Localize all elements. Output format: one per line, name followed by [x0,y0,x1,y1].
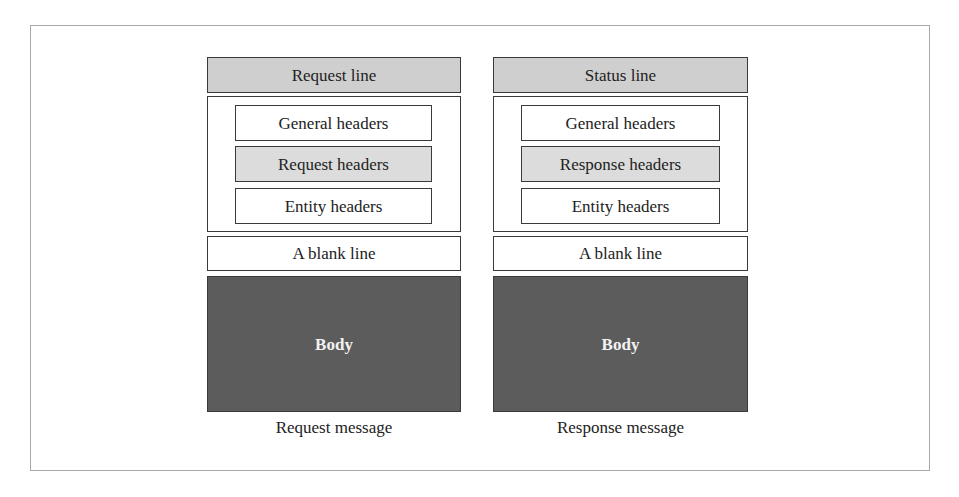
response-headers-box: Response headers [521,146,720,182]
blank-line-label: A blank line [292,245,375,262]
response-message-caption: Response message [493,418,748,438]
body-label: Body [315,336,353,353]
response-blank-line-box: A blank line [493,236,748,271]
request-body-box: Body [207,276,461,412]
response-headers-label: Response headers [560,156,681,173]
response-general-headers-box: General headers [521,105,720,141]
request-line-box: Request line [207,57,461,93]
request-entity-headers-box: Entity headers [235,188,432,224]
response-body-box: Body [493,276,748,412]
entity-headers-label: Entity headers [572,198,670,215]
entity-headers-label: Entity headers [285,198,383,215]
request-message-caption: Request message [207,418,461,438]
request-general-headers-box: General headers [235,105,432,141]
status-line-label: Status line [585,67,656,84]
status-line-box: Status line [493,57,748,93]
request-line-label: Request line [292,67,377,84]
general-headers-label: General headers [566,115,676,132]
request-headers-label: Request headers [278,156,389,173]
request-blank-line-box: A blank line [207,236,461,271]
response-entity-headers-box: Entity headers [521,188,720,224]
request-headers-box: Request headers [235,146,432,182]
body-label: Body [602,336,640,353]
blank-line-label: A blank line [579,245,662,262]
general-headers-label: General headers [279,115,389,132]
figure-frame [30,25,930,471]
